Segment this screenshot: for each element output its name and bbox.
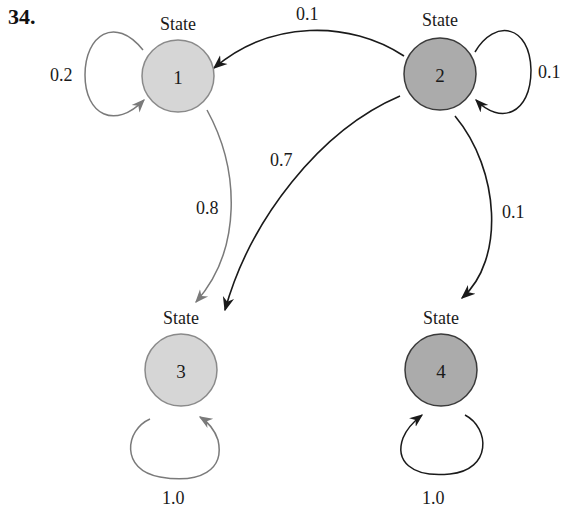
prob-2-to-3: 0.7 [270, 150, 293, 170]
state-2-label: State [422, 10, 458, 30]
edge-2-to-4 [455, 116, 492, 298]
edge-2-to-3 [225, 96, 400, 310]
prob-2-to-1: 0.1 [296, 4, 319, 24]
state-4-number: 4 [436, 361, 446, 382]
prob-2-to-4: 0.1 [502, 202, 525, 222]
prob-2-to-2: 0.1 [538, 62, 561, 82]
prob-1-to-1: 0.2 [50, 65, 73, 85]
prob-1-to-3: 0.8 [196, 198, 219, 218]
state-4-label: State [423, 308, 459, 328]
problem-number: 34. [8, 4, 36, 29]
state-node-2: State 2 [404, 10, 476, 110]
state-node-1: State 1 [142, 14, 214, 112]
state-node-3: State 3 [145, 308, 217, 406]
prob-4-to-4: 1.0 [422, 488, 445, 508]
state-node-4: State 4 [405, 308, 477, 406]
self-loop-4 [401, 415, 483, 475]
self-loop-1 [85, 32, 144, 116]
markov-state-diagram: 34. 0.1 0.8 0.7 0.1 0.2 0.1 1.0 1.0 Stat… [0, 0, 567, 511]
self-loop-2 [475, 31, 531, 114]
state-3-label: State [163, 308, 199, 328]
edge-2-to-1 [214, 30, 404, 68]
state-3-number: 3 [176, 361, 186, 382]
self-loop-3 [131, 417, 220, 479]
prob-3-to-3: 1.0 [162, 488, 185, 508]
state-1-number: 1 [173, 67, 183, 88]
state-1-label: State [160, 14, 196, 34]
state-2-number: 2 [435, 65, 445, 86]
